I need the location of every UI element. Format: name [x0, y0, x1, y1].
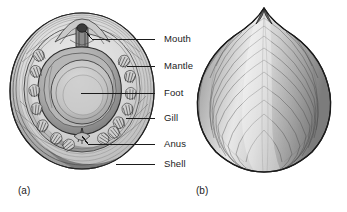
figure-root: Mouth Mantle Foot Gill Anus Shell (a) (b… [0, 0, 347, 212]
leader-anus-hook [82, 136, 88, 144]
label-mantle: Mantle [164, 61, 193, 71]
label-shell: Shell [164, 159, 186, 169]
leader-mouth-hook [85, 31, 92, 39]
label-gill: Gill [164, 113, 178, 123]
label-anus: Anus [164, 139, 186, 149]
label-foot: Foot [164, 88, 183, 98]
label-leader-lines [0, 0, 347, 212]
caption-panel-b: (b) [196, 186, 208, 196]
label-mouth: Mouth [164, 34, 191, 44]
caption-panel-a: (a) [18, 186, 30, 196]
